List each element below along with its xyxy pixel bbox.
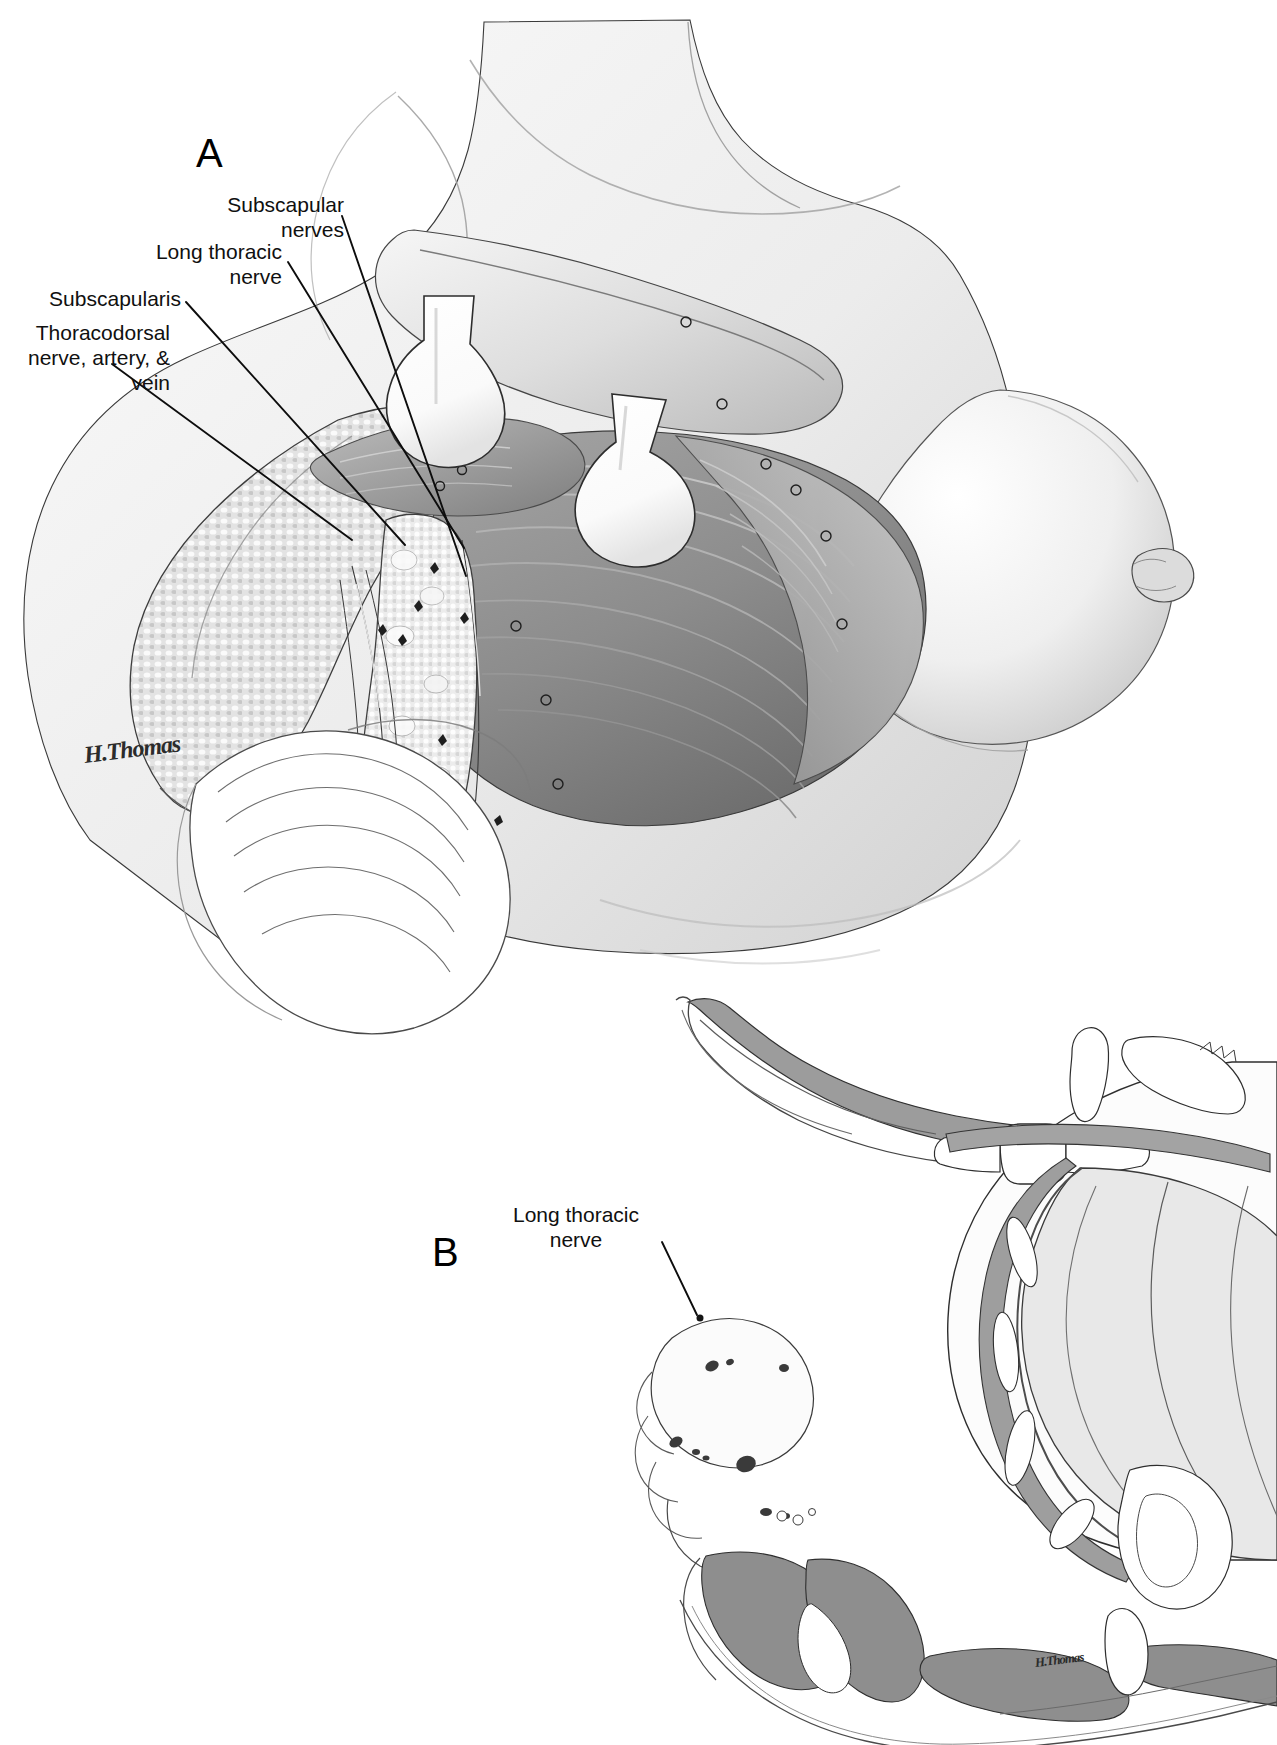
long-thoracic-nerve-marker — [697, 1315, 704, 1322]
label-thoracodorsal-bundle: Thoracodorsal nerve, artery, & vein — [8, 320, 170, 395]
label-subscapular-nerves: Subscapular nerves — [104, 192, 344, 242]
paraspinal-mass-left — [920, 1649, 1129, 1722]
scapula-muscle-slab — [688, 999, 1022, 1150]
panel-b-artwork — [635, 997, 1277, 1745]
label-long-thoracic-nerve-xsection: Long thoracic nerve — [500, 1202, 652, 1252]
spinous-bottom — [1105, 1609, 1148, 1695]
anatomy-plate: A B Subscapular nerves Long thoracic ner… — [0, 0, 1277, 1745]
scapula-thin-plate2 — [682, 1010, 852, 1134]
paraspinal-mass-right — [1130, 1645, 1277, 1706]
label-long-thoracic-nerve: Long thoracic nerve — [24, 239, 282, 289]
nipple — [1132, 549, 1194, 602]
label-subscapularis: Subscapularis — [18, 286, 181, 311]
vessel-lumens-section — [777, 1509, 816, 1526]
panel-letter-b: B — [432, 1232, 459, 1272]
panel-letter-a: A — [196, 133, 223, 173]
